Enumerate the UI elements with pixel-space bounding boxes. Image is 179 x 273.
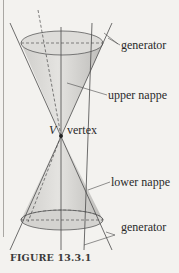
label-lower-nappe: lower nappe — [111, 176, 170, 188]
label-generator-top: generator — [121, 39, 166, 51]
label-upper-nappe: upper nappe — [108, 89, 167, 101]
label-vertex-symbol: V — [49, 124, 56, 136]
vertex-point — [59, 134, 63, 138]
figure-caption: FIGURE 13.3.1 — [10, 252, 92, 263]
label-generator-bottom: generator — [121, 221, 166, 233]
label-vertex: vertex — [67, 124, 97, 136]
